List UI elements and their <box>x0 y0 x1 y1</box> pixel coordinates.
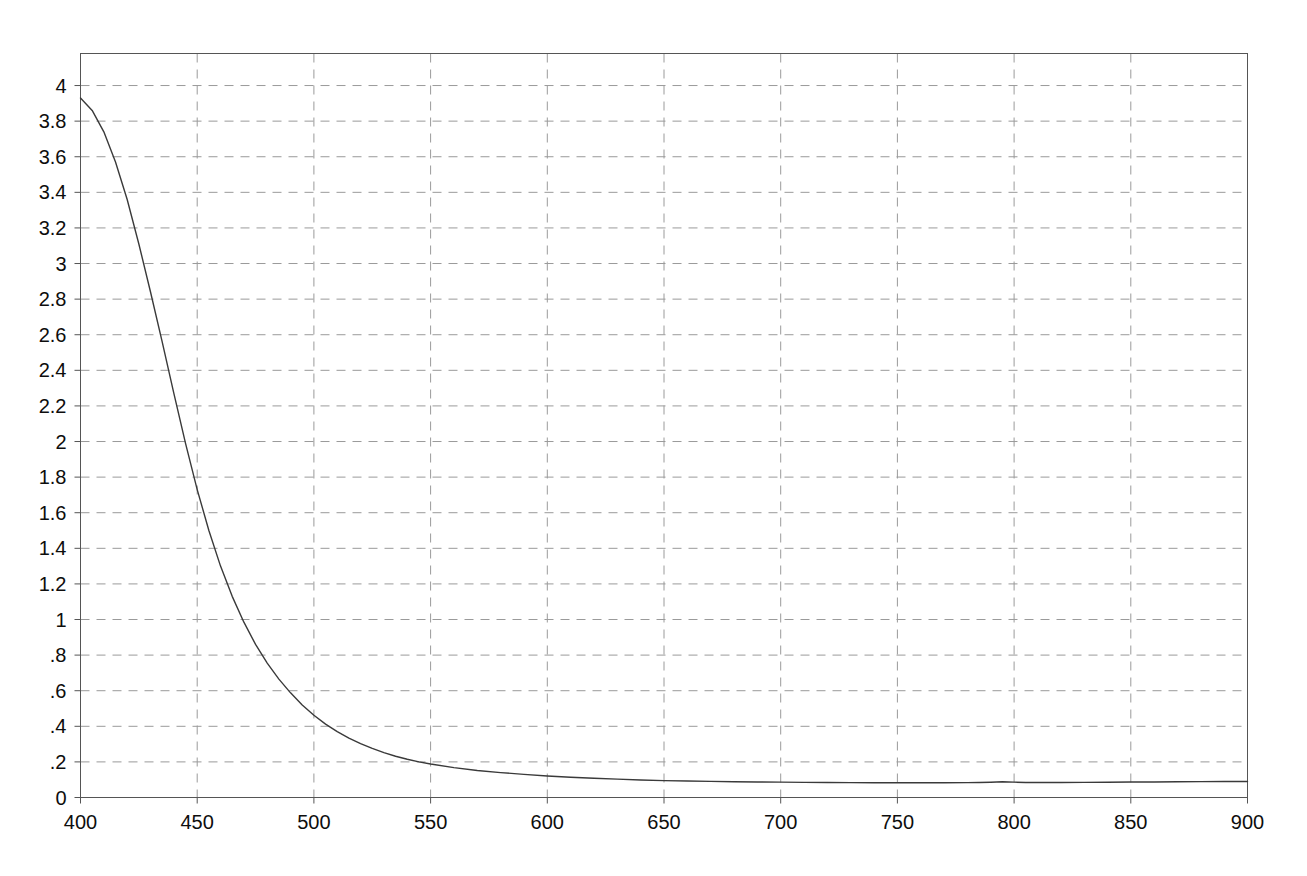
y-axis-tick-label: 2.4 <box>0 359 67 382</box>
x-axis-tick-label: 450 <box>181 811 214 834</box>
y-axis-tick-label: 3.8 <box>0 110 67 133</box>
y-axis-tick-label: 2.6 <box>0 323 67 346</box>
y-axis-tick-label: 3 <box>0 252 67 275</box>
axis-tick-marks <box>75 86 1248 804</box>
x-axis-tick-label: 700 <box>764 811 797 834</box>
y-axis-tick-label: 2.8 <box>0 288 67 311</box>
x-axis-tick-label: 600 <box>531 811 564 834</box>
y-axis-tick-label: 3.6 <box>0 145 67 168</box>
y-axis-tick-label: .4 <box>0 715 67 738</box>
x-axis-tick-label: 800 <box>997 811 1030 834</box>
y-axis-tick-label: 1 <box>0 608 67 631</box>
x-axis-tick-label: 500 <box>297 811 330 834</box>
y-axis-tick-label: 1.6 <box>0 501 67 524</box>
chart-container: 0.2.4.6.811.21.41.61.822.22.42.62.833.23… <box>0 0 1307 876</box>
y-axis-tick-label: 3.4 <box>0 181 67 204</box>
x-axis-tick-label: 900 <box>1231 811 1264 834</box>
vertical-gridlines <box>197 54 1131 798</box>
x-axis-tick-label: 400 <box>64 811 97 834</box>
y-axis-tick-label: 0 <box>0 786 67 809</box>
plot-svg <box>0 0 1307 876</box>
y-axis-tick-label: 1.8 <box>0 466 67 489</box>
y-axis-tick-label: 1.4 <box>0 537 67 560</box>
y-axis-tick-label: .2 <box>0 750 67 773</box>
x-axis-tick-label: 650 <box>647 811 680 834</box>
y-axis-tick-label: 2.2 <box>0 394 67 417</box>
y-axis-tick-label: .8 <box>0 644 67 667</box>
x-axis-tick-label: 550 <box>414 811 447 834</box>
y-axis-tick-label: 2 <box>0 430 67 453</box>
x-axis-tick-label: 850 <box>1114 811 1147 834</box>
x-axis-tick-label: 750 <box>881 811 914 834</box>
y-axis-tick-label: 1.2 <box>0 572 67 595</box>
y-axis-tick-label: 4 <box>0 74 67 97</box>
y-axis-tick-label: .6 <box>0 679 67 702</box>
y-axis-tick-label: 3.2 <box>0 216 67 239</box>
